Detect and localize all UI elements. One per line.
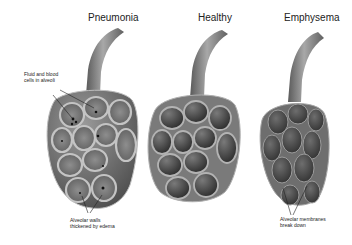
panel-title-pneumonia: Pneumonia — [88, 12, 139, 23]
emphysema-bronchiole — [288, 32, 324, 102]
healthy-alveoli-cluster — [148, 95, 240, 202]
panel-title-emphysema: Emphysema — [284, 12, 340, 23]
annotation-line: cells in alveoli — [24, 77, 58, 83]
panel-title-healthy: Healthy — [198, 12, 232, 23]
alveoli-illustration — [0, 0, 352, 245]
annotation-line: break down — [280, 222, 326, 228]
emphysema-alveoli-cluster — [260, 104, 329, 206]
healthy-bronchiole — [190, 30, 228, 98]
annotation-alveolar-walls-thickened: Alveolar walls thickened by edema — [70, 217, 115, 229]
pneumonia-bronchiole — [86, 28, 124, 95]
annotation-alveolar-membranes-break-down: Alveolar membranes break down — [280, 216, 326, 228]
annotation-fluid-blood-cells: Fluid and blood cells in alveoli — [24, 71, 58, 83]
pneumonia-alveoli-cluster — [47, 90, 138, 208]
annotation-line: thickened by edema — [70, 223, 115, 229]
